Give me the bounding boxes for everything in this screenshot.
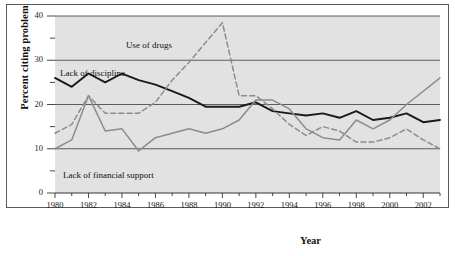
- series-line-1: [55, 74, 440, 123]
- y-tick-label: 30: [21, 54, 43, 64]
- x-axis-title: Year: [300, 235, 321, 246]
- y-tick-label: 10: [21, 143, 43, 153]
- series-annotation: Lack of discipline: [60, 68, 125, 78]
- series-annotation: Lack of financial support: [63, 170, 154, 180]
- series-annotation: Use of drugs: [126, 40, 172, 50]
- x-tick-label: 2002: [403, 200, 443, 210]
- chart-canvas: [0, 0, 455, 256]
- y-tick-label: 0: [21, 187, 43, 197]
- y-tick-label: 20: [21, 99, 43, 109]
- chart-figure: Percent citing problem Year 010203040 19…: [0, 0, 455, 256]
- y-tick-label: 40: [21, 10, 43, 20]
